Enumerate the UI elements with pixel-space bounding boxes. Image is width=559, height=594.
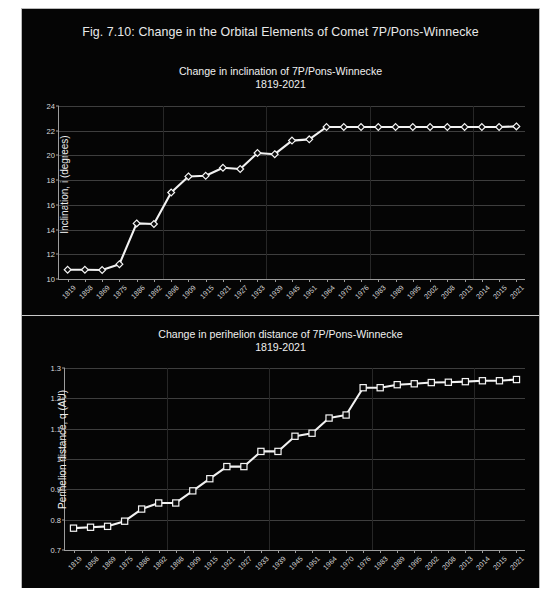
data-point-marker: [81, 266, 88, 273]
x-axis-tick-mark: [465, 279, 466, 282]
x-axis-tick-mark: [74, 550, 75, 553]
data-point-marker: [375, 124, 382, 131]
x-axis-tick-label: 1970: [337, 284, 354, 301]
data-point-marker: [64, 266, 71, 273]
x-axis-tick-mark: [516, 550, 517, 553]
x-axis-tick-label: 1989: [388, 284, 405, 301]
x-axis-tick-mark: [85, 279, 86, 282]
x-axis-tick-label: 1915: [203, 555, 220, 572]
x-axis-tick-label: 1898: [164, 284, 181, 301]
data-point-marker: [462, 379, 468, 385]
x-axis-tick-mark: [240, 279, 241, 282]
data-point-marker: [409, 124, 416, 131]
inclination-title-line2: 1819-2021: [22, 78, 539, 91]
y-axis-tick-label: 0.8: [50, 515, 61, 524]
x-axis-tick-mark: [329, 550, 330, 553]
data-point-marker: [190, 488, 196, 494]
x-axis-tick-mark: [431, 550, 432, 553]
inclination-panel: Fig. 7.10: Change in the Orbital Element…: [22, 9, 539, 314]
x-axis-tick-mark: [327, 279, 328, 282]
x-axis-tick-mark: [309, 279, 310, 282]
x-axis-tick-label: 1869: [95, 284, 112, 301]
x-axis-tick-label: 2008: [441, 555, 458, 572]
figure-panel: Fig. 7.10: Change in the Orbital Element…: [22, 9, 539, 587]
series-layer: [59, 106, 525, 279]
x-axis-tick-mark: [292, 279, 293, 282]
x-axis-tick-mark: [312, 550, 313, 553]
x-axis-tick-mark: [499, 550, 500, 553]
x-axis-tick-mark: [125, 550, 126, 553]
x-axis-tick-label: 1939: [271, 555, 288, 572]
x-axis-tick-mark: [448, 550, 449, 553]
x-axis-tick-label: 1951: [305, 555, 322, 572]
x-axis-tick-mark: [68, 279, 69, 282]
data-point-marker: [428, 379, 434, 385]
x-axis-tick-mark: [206, 279, 207, 282]
data-point-marker: [340, 124, 347, 131]
data-point-marker: [445, 379, 451, 385]
y-axis-tick-label: 16: [47, 200, 55, 209]
y-axis-tick-label: 1.3: [50, 364, 61, 373]
data-point-marker: [513, 376, 519, 382]
x-axis-tick-mark: [346, 550, 347, 553]
perihelion-panel: Change in perihelion distance of 7P/Pons…: [22, 315, 539, 588]
x-axis-tick-label: 2021: [509, 555, 526, 572]
x-axis-tick-mark: [278, 550, 279, 553]
x-axis-tick-label: 1858: [83, 555, 100, 572]
x-axis-tick-mark: [378, 279, 379, 282]
x-axis-tick-label: 2015: [492, 284, 509, 301]
x-axis-tick-label: 1921: [220, 555, 237, 572]
x-axis-tick-mark: [108, 550, 109, 553]
x-axis-tick-label: 2002: [424, 555, 441, 572]
figure-caption: Fig. 7.10: Change in the Orbital Element…: [22, 25, 539, 39]
data-point-marker: [392, 124, 399, 131]
data-point-marker: [220, 164, 227, 171]
x-axis-tick-label: 2013: [458, 555, 475, 572]
x-axis-tick-label: 2014: [475, 555, 492, 572]
x-axis-tick-label: 1933: [254, 555, 271, 572]
data-point-marker: [133, 220, 140, 227]
x-axis-tick-label: 1909: [181, 284, 198, 301]
data-point-marker: [309, 430, 315, 436]
x-axis-tick-label: 1921: [216, 284, 233, 301]
data-point-marker: [258, 448, 264, 454]
x-axis-tick-mark: [482, 550, 483, 553]
data-point-marker: [478, 124, 485, 131]
data-point-marker: [241, 463, 247, 469]
x-axis-tick-label: 1858: [78, 284, 95, 301]
perihelion-chart-title: Change in perihelion distance of 7P/Pons…: [22, 328, 539, 353]
x-axis-tick-label: 1976: [354, 284, 371, 301]
y-axis-tick-label: 20: [47, 151, 55, 160]
series-line: [68, 126, 517, 270]
x-axis-tick-mark: [397, 550, 398, 553]
x-axis-tick-mark: [223, 279, 224, 282]
x-axis-tick-label: 1983: [373, 555, 390, 572]
x-axis-tick-label: 1909: [186, 555, 203, 572]
x-axis-tick-label: 1976: [356, 555, 373, 572]
y-axis-tick-label: 24: [47, 102, 55, 111]
x-axis-tick-mark: [275, 279, 276, 282]
x-axis-tick-label: 2021: [509, 284, 526, 301]
data-point-marker: [275, 448, 281, 454]
y-axis-tick-label: 1.1: [50, 424, 61, 433]
x-axis-tick-mark: [261, 550, 262, 553]
x-axis-tick-label: 1875: [112, 284, 129, 301]
x-axis-tick-mark: [102, 279, 103, 282]
x-axis-tick-mark: [159, 550, 160, 553]
x-axis-tick-label: 1995: [407, 555, 424, 572]
inclination-title-line1: Change in inclination of 7P/Pons-Winneck…: [22, 65, 539, 78]
data-point-marker: [139, 506, 145, 512]
data-point-marker: [173, 500, 179, 506]
x-axis-tick-mark: [119, 279, 120, 282]
data-point-marker: [444, 124, 451, 131]
x-axis-tick-label: 1970: [339, 555, 356, 572]
x-axis-tick-mark: [499, 279, 500, 282]
x-axis-tick-label: 1875: [117, 555, 134, 572]
x-axis-tick-label: 2002: [423, 284, 440, 301]
y-axis-tick-label: 12: [47, 250, 55, 259]
data-point-marker: [479, 378, 485, 384]
x-axis-tick-label: 1819: [60, 284, 77, 301]
x-axis-tick-label: 1892: [152, 555, 169, 572]
x-axis-tick-label: 1951: [302, 284, 319, 301]
x-axis-tick-mark: [257, 279, 258, 282]
